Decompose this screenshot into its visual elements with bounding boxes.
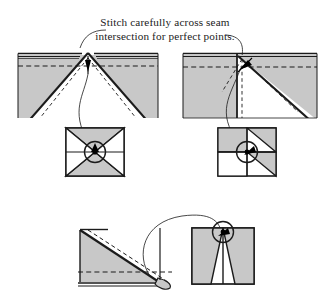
quilting-instruction-figure: Stitch carefully across seam intersectio… — [0, 0, 330, 295]
caption-block: Stitch carefully across seam intersectio… — [95, 16, 235, 42]
caption-line-2: intersection for perfect points. — [95, 30, 235, 42]
flying-geese-block-inset — [192, 222, 254, 285]
pinwheel-block-inset — [218, 128, 276, 176]
inset-right-center-dot — [245, 150, 250, 155]
hourglass-block-inset — [66, 128, 124, 176]
raw-edge-stack-bottom — [78, 283, 168, 286]
inset-right-bl-quadrant — [218, 152, 247, 176]
figure-canvas: Stitch carefully across seam intersectio… — [0, 0, 330, 295]
folded-tail-flap — [155, 278, 170, 289]
inset-bottom-center-dot — [221, 230, 226, 235]
inset-left-center-dot — [92, 149, 97, 154]
inset-right-tl-quadrant — [218, 128, 247, 152]
caption-line-1: Stitch carefully across seam — [100, 16, 230, 28]
